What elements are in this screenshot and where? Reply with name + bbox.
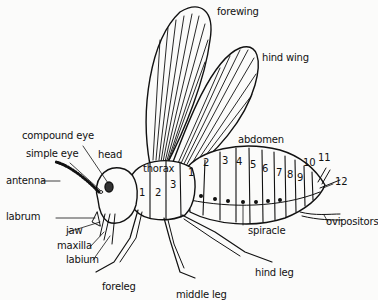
thorax-segment-1: 1 bbox=[139, 188, 145, 198]
label-hind-wing: hind wing bbox=[262, 53, 309, 63]
label-foreleg: foreleg bbox=[102, 282, 136, 292]
label-antenna: antenna bbox=[6, 176, 46, 186]
abdomen-segment-12: 12 bbox=[335, 177, 348, 187]
label-forewing: forewing bbox=[217, 7, 259, 17]
abdomen-segment-3: 3 bbox=[222, 156, 228, 166]
label-thorax: thorax bbox=[143, 164, 174, 174]
thorax-segment-2: 2 bbox=[155, 188, 161, 198]
abdomen-segment-5: 5 bbox=[250, 160, 256, 170]
label-middle-leg: middle leg bbox=[176, 290, 227, 300]
abdomen-segment-1: 1 bbox=[188, 168, 194, 178]
abdomen-segment-9: 9 bbox=[297, 173, 303, 183]
label-hind-leg: hind leg bbox=[255, 268, 294, 278]
abdomen-segment-6: 6 bbox=[262, 164, 268, 174]
label-labium: labium bbox=[66, 255, 99, 265]
head-shape bbox=[97, 168, 138, 223]
label-ovipositors: ovipositors bbox=[326, 217, 378, 227]
thorax-segment-3: 3 bbox=[170, 180, 176, 190]
label-spiracle: spiracle bbox=[248, 226, 285, 236]
abdomen-segment-10: 10 bbox=[303, 158, 316, 168]
label-jaw: jaw bbox=[66, 226, 83, 236]
abdomen-segment-2: 2 bbox=[203, 158, 209, 168]
abdomen-segment-7: 7 bbox=[276, 168, 282, 178]
label-abdomen: abdomen bbox=[238, 135, 284, 145]
label-labrum: labrum bbox=[6, 212, 40, 222]
abdomen-segment-11: 11 bbox=[318, 153, 331, 163]
label-compound-eye: compound eye bbox=[22, 131, 94, 141]
label-head: head bbox=[98, 150, 122, 160]
abdomen-segment-4: 4 bbox=[236, 157, 242, 167]
abdomen-segment-8: 8 bbox=[287, 170, 293, 180]
label-simple-eye: simple eye bbox=[26, 149, 78, 159]
label-maxilla: maxilla bbox=[57, 241, 92, 251]
